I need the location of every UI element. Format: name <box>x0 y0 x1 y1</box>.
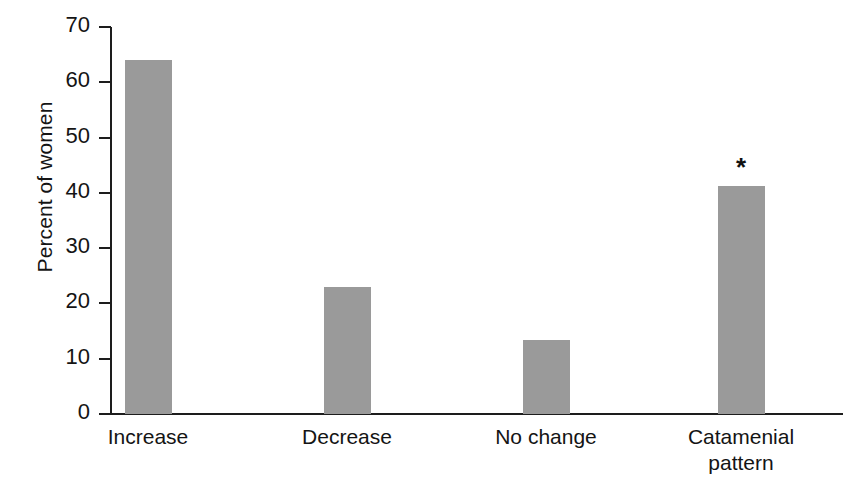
y-axis-tick <box>99 302 111 304</box>
y-axis-tick-label: 30 <box>28 233 90 259</box>
y-axis-tick <box>99 247 111 249</box>
y-axis-tick <box>99 81 111 83</box>
x-axis-tick-label-line: Catamenial <box>646 424 836 450</box>
x-axis-tick-label: Catamenialpattern <box>646 424 836 476</box>
x-axis-tick-label-line: pattern <box>646 450 836 476</box>
bar-chart: Percent of women 706050403020100 Increas… <box>0 0 859 488</box>
y-axis-tick <box>99 26 111 28</box>
y-axis-tick-label: 50 <box>28 123 90 149</box>
bar-catamenial-pattern <box>718 186 765 414</box>
significance-marker: * <box>701 154 781 180</box>
x-axis-tick-label-line: Decrease <box>252 424 442 450</box>
y-axis-tick-label: 10 <box>28 344 90 370</box>
y-axis-tick-label: 20 <box>28 288 90 314</box>
bar-increase <box>125 60 172 414</box>
x-axis-tick-label: No change <box>451 424 641 450</box>
y-axis-tick-label: 0 <box>28 399 90 425</box>
x-axis-tick-label: Increase <box>53 424 243 450</box>
y-axis-tick <box>99 358 111 360</box>
y-axis-tick <box>99 137 111 139</box>
y-axis-tick-label: 40 <box>28 178 90 204</box>
y-axis-tick-label: 60 <box>28 67 90 93</box>
bar-no-change <box>523 340 570 414</box>
y-axis-tick <box>99 192 111 194</box>
x-axis-tick-label: Decrease <box>252 424 442 450</box>
x-axis-tick-label-line: Increase <box>53 424 243 450</box>
y-axis-tick-label: 70 <box>28 12 90 38</box>
bar-decrease <box>324 287 371 414</box>
x-axis-tick-label-line: No change <box>451 424 641 450</box>
